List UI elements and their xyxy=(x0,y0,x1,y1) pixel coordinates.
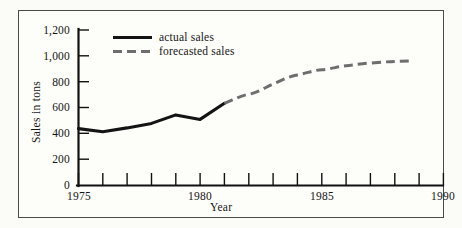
y-tick-label-600: 600 xyxy=(26,101,70,113)
y-tick-label-400: 400 xyxy=(26,127,70,139)
series-forecasted-sales xyxy=(224,61,409,103)
y-tick-label-800: 800 xyxy=(26,76,70,88)
y-tick-label-200: 200 xyxy=(26,153,70,165)
y-tick-label-1000: 1,000 xyxy=(26,50,70,62)
x-axis-title: Year xyxy=(210,201,232,213)
x-axis-ticks xyxy=(79,173,444,186)
x-tick-label-1985: 1985 xyxy=(303,190,341,202)
y-tick-label-1200: 1,200 xyxy=(26,24,70,36)
y-axis-ticks xyxy=(79,30,90,159)
legend-label-forecasted-sales: forecasted sales xyxy=(159,45,235,57)
legend-label-actual-sales: actual sales xyxy=(159,31,214,43)
series-actual-sales xyxy=(79,103,225,132)
x-tick-label-1975: 1975 xyxy=(60,190,98,202)
chart-figure: Sales in tons 1,200 1,000 800 600 400 20… xyxy=(0,0,462,228)
x-tick-label-1990: 1990 xyxy=(424,190,462,202)
